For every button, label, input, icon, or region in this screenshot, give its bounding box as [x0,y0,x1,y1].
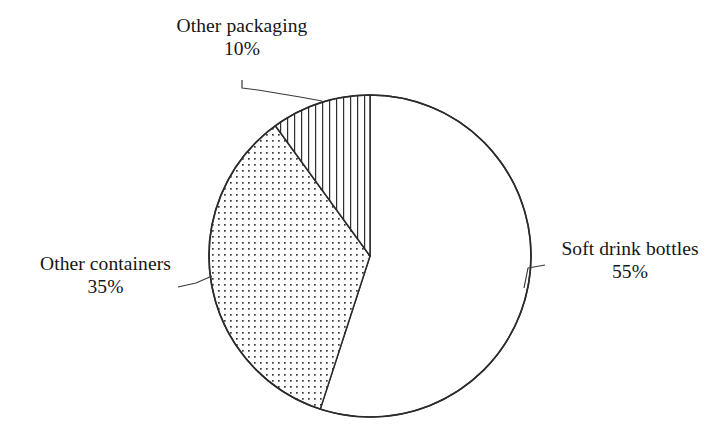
pie-chart-graphic [0,0,728,447]
pie-label-other-packaging-name: Other packaging [152,14,332,37]
pie-label-soft-drink-bottles-name: Soft drink bottles [542,237,718,260]
pie-label-other-packaging: Other packaging 10% [152,14,332,60]
pie-label-other-containers: Other containers 35% [18,252,193,298]
pie-label-soft-drink-bottles: Soft drink bottles 55% [542,237,718,283]
leader-line-other-packaging [242,80,322,101]
pie-label-other-containers-name: Other containers [18,252,193,275]
pie-chart-figure: Other packaging 10% Other containers 35%… [0,0,728,447]
pie-label-other-containers-value: 35% [18,275,193,298]
pie-label-other-packaging-value: 10% [152,37,332,60]
pie-label-soft-drink-bottles-value: 55% [542,260,718,283]
